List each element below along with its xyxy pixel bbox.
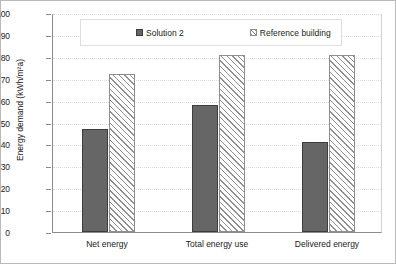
y-axis-tick-mark <box>46 58 51 59</box>
chart-legend: Solution 2 Reference building <box>80 19 342 46</box>
y-axis-tick-mark <box>46 233 51 234</box>
chart-figure: Energy demand (kWh/m²a) 0102030405060708… <box>0 0 396 264</box>
y-axis-tick-label: 50 <box>0 120 10 129</box>
y-axis-tick-mark <box>46 189 51 190</box>
y-axis-tick-label: 70 <box>0 76 10 85</box>
y-axis-tick-label: 0 <box>0 229 10 238</box>
y-axis-tick-label: 90 <box>0 32 10 41</box>
y-axis-tick-mark <box>46 124 51 125</box>
legend-item-reference-building: Reference building <box>250 28 331 38</box>
y-axis-tick-label: 60 <box>0 98 10 107</box>
y-axis-tick-label: 80 <box>0 54 10 63</box>
y-axis-tick-label: 10 <box>0 207 10 216</box>
y-axis-tick-label: 100 <box>0 10 10 19</box>
x-axis-category-label: Delivered energy <box>267 239 387 249</box>
legend-label: Solution 2 <box>146 28 184 38</box>
y-axis-tick-label: 20 <box>0 185 10 194</box>
y-axis-tick-label: 30 <box>0 163 10 172</box>
bar <box>329 55 355 232</box>
plot-area <box>52 14 382 233</box>
legend-label: Reference building <box>260 28 331 38</box>
bar-group <box>53 14 383 232</box>
y-axis-tick-mark <box>46 211 51 212</box>
legend-item-solution-2: Solution 2 <box>136 28 184 38</box>
x-axis-category-label: Net energy <box>47 239 167 249</box>
y-axis-tick-mark <box>46 167 51 168</box>
y-axis-tick-mark <box>46 80 51 81</box>
y-axis-tick-mark <box>46 36 51 37</box>
y-axis-title: Energy demand (kWh/m²a) <box>15 0 25 220</box>
y-axis-tick-mark <box>46 14 51 15</box>
hatched-square-icon <box>250 29 257 36</box>
solid-square-icon <box>136 29 143 36</box>
bar <box>302 142 328 232</box>
y-axis-tick-mark <box>46 102 51 103</box>
y-axis-tick-label: 40 <box>0 141 10 150</box>
y-axis-tick-mark <box>46 145 51 146</box>
x-axis-category-label: Total energy use <box>157 239 277 249</box>
